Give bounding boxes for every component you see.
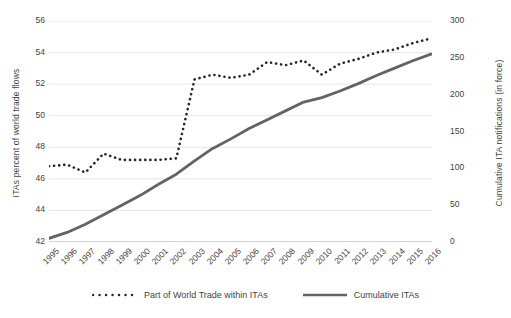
legend-item-cumulative-itas[interactable]: Cumulative ITAs: [302, 290, 419, 300]
dotted-line-swatch: [92, 291, 138, 299]
legend-item-part-of-world-trade[interactable]: Part of World Trade within ITAs: [92, 290, 268, 300]
legend-label-0: Part of World Trade within ITAs: [144, 290, 268, 300]
x-axis-labels: 1995199619971998199920002001200220032004…: [0, 0, 511, 318]
legend-label-1: Cumulative ITAs: [354, 290, 419, 300]
chart-container: ITAs percent of world trade flows Cumula…: [0, 0, 511, 318]
chart-legend: Part of World Trade within ITAs Cumulati…: [0, 290, 511, 300]
solid-line-swatch: [302, 291, 348, 299]
